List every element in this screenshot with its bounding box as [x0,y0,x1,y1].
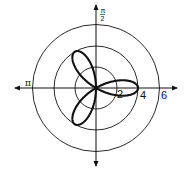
tick-label-4: 4 [140,89,146,101]
tick-label-2: 2 [117,88,123,100]
half-pi-numerator: π [101,7,106,14]
polar-plot: 2 4 6 π π 2 [0,0,184,169]
tick-label-6: 6 [161,89,167,101]
angle-label-half-pi: π 2 [100,7,106,22]
angle-label-pi: π [25,78,31,88]
half-pi-denominator: 2 [101,15,105,22]
